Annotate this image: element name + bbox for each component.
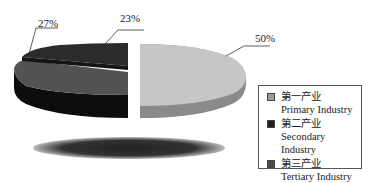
label-primary-pct: 50% — [255, 33, 275, 44]
legend-label-en: Primary Industry — [281, 103, 352, 116]
leader-secondary — [105, 30, 144, 44]
legend-swatch-tertiary — [267, 160, 275, 168]
legend-item-secondary: 第二产业 Secondary Industry — [267, 117, 361, 156]
legend-label-en: Secondary Industry — [281, 130, 361, 156]
slice-primary — [140, 44, 246, 118]
leader-primary — [226, 46, 270, 56]
legend-label-cn: 第三产业 — [281, 157, 352, 170]
legend-item-tertiary: 第三产业 Tertiary Industry — [267, 157, 361, 183]
slice-tertiary — [14, 60, 128, 118]
chart-legend: 第一产业 Primary Industry 第二产业 Secondary Ind… — [258, 85, 362, 169]
label-secondary-pct: 23% — [120, 13, 140, 24]
legend-swatch-primary — [267, 93, 275, 101]
legend-label-en: Tertiary Industry — [281, 170, 352, 183]
legend-label-cn: 第一产业 — [281, 90, 352, 103]
legend-swatch-secondary — [267, 120, 275, 128]
pie-shadow — [33, 137, 225, 159]
label-tertiary-pct: 27% — [38, 18, 58, 29]
legend-label-cn: 第二产业 — [281, 117, 361, 130]
legend-item-primary: 第一产业 Primary Industry — [267, 90, 361, 116]
